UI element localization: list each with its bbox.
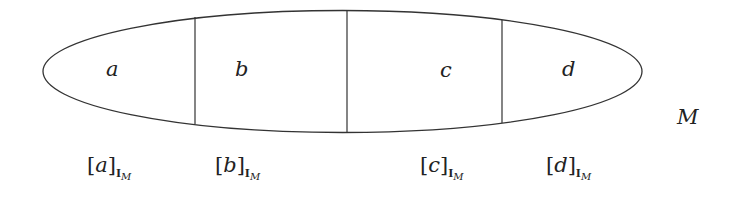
- class-label-c: [c]IM: [420, 155, 463, 176]
- class-label-a: [a]IM: [87, 155, 131, 176]
- region-label-d: d: [562, 59, 575, 80]
- region-label-c: c: [440, 60, 452, 81]
- partition-diagram: a b c d M [a]IM [b]IM [c]IM [d]IM: [0, 0, 741, 199]
- region-label-a: a: [106, 59, 119, 80]
- region-label-b: b: [235, 59, 248, 80]
- class-label-b: [b]IM: [215, 155, 260, 176]
- set-label-m: M: [677, 107, 699, 128]
- class-label-d: [d]IM: [546, 155, 591, 176]
- set-m-ellipse: [43, 11, 642, 133]
